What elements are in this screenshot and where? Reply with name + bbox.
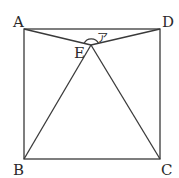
- segment-ea: [24, 29, 91, 45]
- label-d: D: [162, 13, 174, 31]
- geometry-diagram: A D E B C ア: [0, 0, 179, 178]
- segment-eb: [24, 45, 91, 159]
- angle-label: ア: [97, 32, 108, 45]
- label-e: E: [74, 44, 85, 62]
- segment-ec: [91, 45, 160, 159]
- label-c: C: [161, 161, 172, 178]
- label-b: B: [13, 161, 24, 178]
- square-abcd: [24, 29, 160, 159]
- label-a: A: [12, 13, 24, 31]
